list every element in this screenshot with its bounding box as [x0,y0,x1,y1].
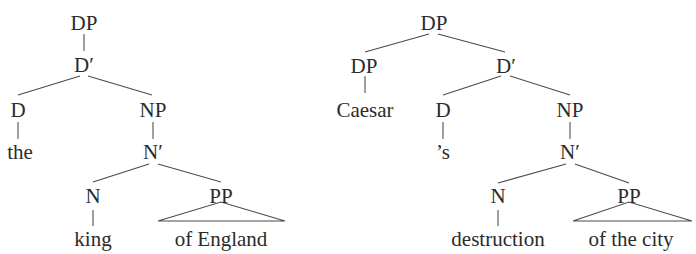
terminal-of-the-city: of the city [588,227,674,251]
edge-dbar-to-d-right [443,76,501,95]
node-nbar-left: N′ [143,140,163,164]
node-dp-root-left: DP [71,11,98,35]
terminal-king: king [74,227,112,251]
terminal-destruction: destruction [451,227,545,251]
edge-nbar-to-n [93,164,149,182]
node-d-left: D [10,98,25,122]
node-pp-right: PP [617,184,640,208]
edge-dbar-to-d [18,76,80,95]
terminal-of-england: of England [175,227,268,251]
edge-root-to-specdp [365,34,429,52]
edge-dbar-to-np-right [510,76,570,95]
node-d-right: D [435,98,450,122]
edge-nbar-to-n-right [498,164,566,183]
tree-canvas: DP D′ D the NP N′ N king PP of England [0,0,696,254]
terminal-s: ’s [436,140,450,164]
edge-dbar-to-np [88,76,152,95]
node-nbar-right: N′ [560,140,580,164]
terminal-the: the [7,140,33,164]
syntax-tree-figure: DP D′ D the NP N′ N king PP of England [0,0,696,254]
edge-nbar-to-pp-right [575,164,629,183]
node-n-right: N [490,184,505,208]
node-dbar-right: D′ [496,54,516,78]
node-np-right: NP [557,98,584,122]
tree-left: DP D′ D the NP N′ N king PP of England [7,11,285,251]
node-dbar-left: D′ [74,53,94,77]
tree-right: DP DP Caesar D′ D ’s NP N′ N destruction… [336,11,692,251]
node-np-left: NP [140,98,167,122]
edge-root-to-dbar [438,34,505,52]
node-dp-root-right: DP [421,11,448,35]
node-n-left: N [85,184,100,208]
node-dp-spec-right: DP [351,54,378,78]
edge-nbar-to-pp [158,164,221,182]
terminal-caesar: Caesar [336,98,393,122]
node-pp-left: PP [209,184,232,208]
